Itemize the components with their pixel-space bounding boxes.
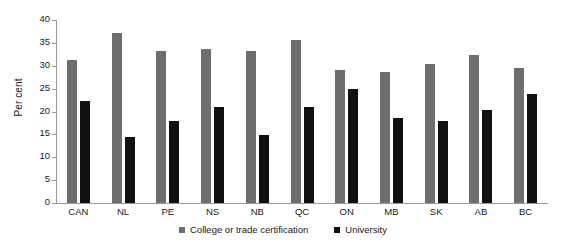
- legend-swatch-icon: [334, 227, 340, 233]
- y-tick-mark: [52, 20, 56, 21]
- bar: [201, 49, 211, 203]
- legend-item: University: [334, 224, 387, 235]
- bar-group: [112, 20, 135, 203]
- y-tick-mark: [52, 180, 56, 181]
- y-tick-mark: [52, 66, 56, 67]
- bar: [259, 135, 269, 203]
- bar: [125, 137, 135, 203]
- bar: [214, 107, 224, 203]
- bar: [514, 68, 524, 203]
- bar-group: [201, 20, 224, 203]
- plot-area: 0510152025303540 CANNLPENSNBQCONMBSKABBC: [56, 20, 548, 203]
- y-tick-label: 10: [28, 150, 50, 161]
- y-tick-mark: [52, 203, 56, 204]
- bar: [156, 51, 166, 203]
- x-tick-label-qc: QC: [282, 206, 322, 217]
- y-tick-mark: [52, 112, 56, 113]
- x-tick-label-ns: NS: [193, 206, 233, 217]
- bar: [291, 40, 301, 203]
- bar: [393, 118, 403, 203]
- bar-group: [380, 20, 403, 203]
- y-tick-mark: [52, 157, 56, 158]
- legend-item: College or trade certification: [179, 224, 308, 235]
- bar: [67, 60, 77, 203]
- bar: [169, 121, 179, 203]
- y-tick-label: 0: [28, 196, 50, 207]
- x-tick-label-can: CAN: [58, 206, 98, 217]
- x-axis-line: [56, 203, 548, 204]
- bar: [348, 89, 358, 203]
- y-tick-label: 15: [28, 127, 50, 138]
- bar: [425, 64, 435, 203]
- legend-label: College or trade certification: [190, 224, 308, 235]
- bar-group: [425, 20, 448, 203]
- bar: [335, 70, 345, 203]
- y-tick-label: 20: [28, 105, 50, 116]
- bar-group: [469, 20, 492, 203]
- bar-group: [67, 20, 90, 203]
- bar-group: [291, 20, 314, 203]
- bar: [304, 107, 314, 203]
- bar-chart: Per cent 0510152025303540 CANNLPENSNBQCO…: [0, 0, 566, 247]
- bar-group: [335, 20, 358, 203]
- y-tick-label: 35: [28, 36, 50, 47]
- bar: [438, 121, 448, 203]
- legend-swatch-icon: [179, 227, 185, 233]
- x-tick-label-bc: BC: [506, 206, 546, 217]
- y-tick-label: 30: [28, 59, 50, 70]
- bar: [469, 55, 479, 203]
- bar: [527, 94, 537, 203]
- y-tick-label: 5: [28, 173, 50, 184]
- x-tick-label-pe: PE: [148, 206, 188, 217]
- x-tick-label-ab: AB: [461, 206, 501, 217]
- x-tick-label-nl: NL: [103, 206, 143, 217]
- y-tick-label: 40: [28, 13, 50, 24]
- y-tick-mark: [52, 43, 56, 44]
- x-tick-label-mb: MB: [371, 206, 411, 217]
- bar-group: [156, 20, 179, 203]
- legend-label: University: [345, 224, 387, 235]
- x-tick-label-on: ON: [327, 206, 367, 217]
- x-tick-label-nb: NB: [237, 206, 277, 217]
- y-tick-mark: [52, 134, 56, 135]
- bar: [80, 101, 90, 203]
- bar-group: [514, 20, 537, 203]
- x-tick-label-sk: SK: [416, 206, 456, 217]
- bar-group: [246, 20, 269, 203]
- y-tick-label: 25: [28, 82, 50, 93]
- bar: [246, 51, 256, 203]
- bar: [112, 33, 122, 203]
- chart-legend: College or trade certificationUniversity: [0, 224, 566, 235]
- y-axis-title: Per cent: [13, 58, 24, 138]
- bar: [482, 110, 492, 203]
- y-tick-mark: [52, 89, 56, 90]
- bar: [380, 72, 390, 203]
